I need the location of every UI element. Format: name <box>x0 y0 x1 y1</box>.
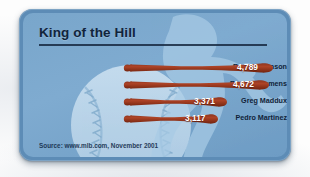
source-caption: Source: www.mlb.com, November 2001 <box>39 142 158 149</box>
title-divider <box>39 44 267 46</box>
screenshot-scene: King of the Hill Randy Johnson <box>0 0 310 177</box>
chart-row: Greg Maddux <box>23 95 287 112</box>
page-title: King of the Hill <box>39 25 136 40</box>
bar-chart: Randy Johnson <box>23 61 287 129</box>
infographic-card: King of the Hill Randy Johnson <box>19 9 291 161</box>
chart-row: Randy Johnson <box>23 61 287 78</box>
card-inner-panel: King of the Hill Randy Johnson <box>23 13 287 157</box>
bar-value-label: 4,672 <box>233 78 254 91</box>
bar-value-label: 4,789 <box>237 61 258 74</box>
chart-row: Rodger Clemens <box>23 78 287 95</box>
bar-value-label: 3,117 <box>185 112 206 125</box>
bar-value-label: 3,371 <box>194 95 215 108</box>
chart-row: Pedro Martinez <box>23 112 287 129</box>
